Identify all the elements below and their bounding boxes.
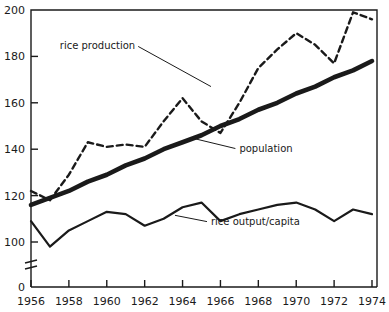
x-tick-label: 1966: [206, 295, 234, 308]
annotation-label: rice output/capita: [211, 216, 300, 227]
x-tick-label: 1974: [358, 295, 386, 308]
series-line-population: [31, 61, 372, 205]
x-tick-label: 1962: [131, 295, 159, 308]
x-tick-label: 1958: [55, 295, 83, 308]
y-tick-label: 100: [4, 236, 25, 249]
annotation-label: population: [239, 143, 292, 154]
x-tick-label: 1968: [244, 295, 272, 308]
y-tick-label: 160: [4, 97, 25, 110]
x-tick-label: 1964: [169, 295, 197, 308]
chart-container: 0100120140160180200195619581960196219641…: [0, 0, 389, 312]
y-tick-label: 0: [18, 281, 25, 294]
x-tick-label: 1956: [17, 295, 45, 308]
line-chart: 0100120140160180200195619581960196219641…: [0, 0, 389, 312]
y-tick-label: 200: [4, 4, 25, 17]
annotation-leader-line: [190, 138, 235, 149]
annotation-label: rice production: [60, 40, 135, 51]
y-tick-label: 180: [4, 50, 25, 63]
annotation-leader-line: [138, 46, 211, 86]
x-tick-label: 1972: [320, 295, 348, 308]
x-tick-label: 1960: [93, 295, 121, 308]
series-line-rice-output-capita: [31, 203, 372, 247]
y-tick-label: 120: [4, 190, 25, 203]
x-tick-label: 1970: [282, 295, 310, 308]
annotation-leader-line: [175, 215, 207, 221]
y-tick-label: 140: [4, 143, 25, 156]
